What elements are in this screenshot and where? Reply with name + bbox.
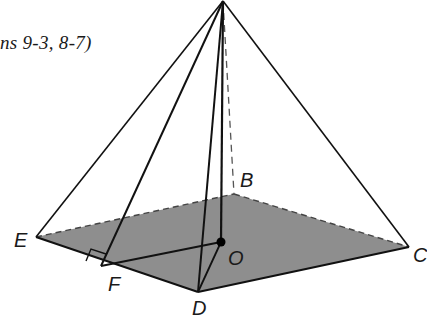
pyramid-diagram: B C D E F O [0, 0, 427, 324]
label-O: O [228, 247, 244, 269]
edge-AB [223, 1, 234, 194]
label-F: F [108, 273, 122, 295]
point-O [217, 238, 226, 247]
label-D: D [192, 297, 206, 319]
label-E: E [14, 229, 28, 251]
edge-AE [36, 1, 223, 237]
label-C: C [413, 244, 427, 266]
label-B: B [240, 169, 253, 191]
